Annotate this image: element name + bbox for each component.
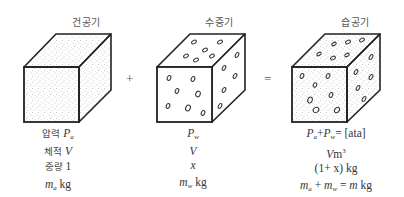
- dry-air-pressure: 압력 Pa: [28, 126, 88, 144]
- plus-operator: +: [126, 71, 133, 87]
- dry-air-labels: 압력 Pa 체적 V 중량 1 ma kg: [28, 126, 88, 195]
- water-vapor-labels: Pw V x mw kg: [168, 126, 218, 193]
- dry-air-cube: [24, 34, 111, 122]
- water-vapor-weight: x: [168, 158, 218, 172]
- dry-air-mass: ma kg: [28, 177, 88, 195]
- dry-air-weight: 중량 1: [28, 159, 88, 174]
- moist-air-volume: Vm3: [286, 144, 386, 161]
- water-vapor-pressure: Pw: [168, 126, 218, 144]
- equals-operator: =: [264, 71, 271, 87]
- water-vapor-cube: [157, 34, 245, 122]
- moist-air-pressure: Pa+Pw= [ata]: [286, 126, 386, 144]
- water-vapor-title: 수증기: [205, 14, 234, 29]
- moist-air-weight: (1+ x) kg: [286, 161, 386, 175]
- moist-air-labels: Pa+Pw= [ata] Vm3 (1+ x) kg ma + mw = m k…: [286, 126, 386, 196]
- water-vapor-mass: mw kg: [168, 175, 218, 193]
- moist-air-mass: ma + mw = m kg: [286, 178, 386, 196]
- moist-air-title: 습공기: [341, 14, 370, 29]
- water-vapor-volume: V: [168, 144, 218, 158]
- dry-air-title: 건공기: [72, 14, 101, 29]
- dry-air-volume: 체적 V: [28, 144, 88, 159]
- moist-air-cube: [292, 34, 380, 122]
